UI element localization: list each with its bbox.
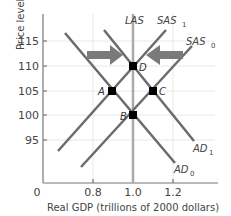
ad0-label-sub: 0	[190, 170, 194, 178]
ytick-110: 110	[18, 60, 39, 73]
ytick-95: 95	[25, 134, 39, 147]
x-axis-title: Real GDP (trillions of 2000 dollars)	[47, 202, 219, 213]
point-a	[108, 87, 116, 95]
chart: 115 110 105 100 95 0 0.8 1.0 1.2 Price l…	[0, 0, 231, 216]
xtick-1-0: 1.0	[124, 186, 142, 199]
xtick-0-8: 0.8	[84, 186, 102, 199]
ad1-label: AD 1	[192, 143, 213, 157]
point-d-label: D	[139, 62, 147, 73]
sas0-label-sub: 0	[211, 42, 215, 50]
point-c-label: C	[159, 86, 166, 97]
point-b-label: B	[120, 111, 127, 122]
xtick-origin: 0	[34, 186, 41, 199]
xtick-1-2: 1.2	[164, 186, 182, 199]
ytick-100: 100	[18, 109, 39, 122]
point-a-label: A	[97, 86, 105, 97]
las-label: LAS	[125, 15, 144, 26]
ad0-label-text: AD	[173, 164, 189, 175]
sas1-label: SAS 1	[157, 15, 186, 29]
point-d	[129, 62, 137, 70]
sas1-label-text: SAS	[157, 15, 177, 26]
ytick-105: 105	[18, 85, 39, 98]
sas1-label-sub: 1	[182, 21, 186, 29]
y-axis-title: Price level	[15, 0, 26, 50]
ad1-label-text: AD	[192, 143, 208, 154]
point-c	[149, 87, 157, 95]
ad0-label: AD 0	[173, 164, 194, 178]
point-b	[129, 111, 137, 119]
sas0-label-text: SAS	[186, 36, 206, 47]
ad1-label-sub: 1	[209, 149, 213, 157]
